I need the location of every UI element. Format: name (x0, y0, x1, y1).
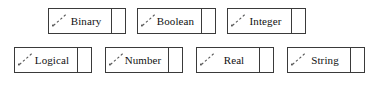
datatype-diagram-canvas: BinaryBooleanIntegerLogicalNumberRealStr… (0, 0, 380, 85)
datatype-node-label: Integer (236, 16, 284, 27)
datatype-node-integer[interactable]: Integer (227, 8, 306, 34)
datatype-node-label: Real (210, 55, 247, 66)
datatype-node-logical[interactable]: Logical (14, 47, 92, 73)
datatype-node-attributes-compartment (202, 9, 215, 33)
datatype-node-label: String (297, 55, 341, 66)
datatype-node-body: Logical (15, 48, 78, 72)
datatype-node-label: Boolean (143, 16, 196, 27)
datatype-node-attributes-compartment (260, 48, 273, 72)
datatype-node-body: String (288, 48, 351, 72)
datatype-node-body: Boolean (138, 9, 202, 33)
datatype-node-body: Number (106, 48, 169, 72)
datatype-node-attributes-compartment (78, 48, 91, 72)
datatype-node-real[interactable]: Real (196, 47, 274, 73)
datatype-node-body: Integer (228, 9, 292, 33)
datatype-node-number[interactable]: Number (105, 47, 183, 73)
datatype-node-attributes-compartment (169, 48, 182, 72)
datatype-node-boolean[interactable]: Boolean (137, 8, 216, 34)
datatype-node-binary[interactable]: Binary (48, 8, 126, 34)
datatype-node-label: Binary (57, 16, 104, 27)
datatype-node-label: Number (111, 55, 164, 66)
datatype-node-attributes-compartment (292, 9, 305, 33)
datatype-node-string[interactable]: String (287, 47, 365, 73)
datatype-node-body: Real (197, 48, 260, 72)
datatype-node-body: Binary (49, 9, 112, 33)
datatype-node-attributes-compartment (351, 48, 364, 72)
datatype-node-attributes-compartment (112, 9, 125, 33)
datatype-node-label: Logical (21, 55, 71, 66)
